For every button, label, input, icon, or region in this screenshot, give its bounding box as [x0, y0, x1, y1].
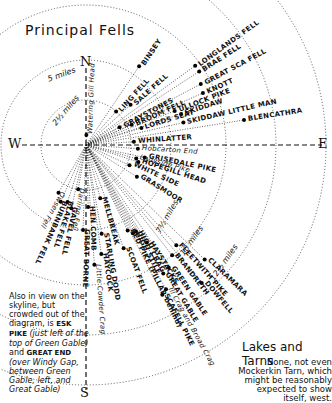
- summit-dot: [193, 64, 197, 68]
- lakes-text: None, not even Mockerkin Tarn, which mig…: [236, 358, 332, 403]
- summit-dot: [136, 147, 140, 151]
- summit-dot: [242, 118, 246, 122]
- summit-dot: [199, 82, 203, 86]
- summit-dot: [201, 91, 205, 95]
- skyline-note: Also in view on the skyline, but crowded…: [9, 292, 89, 394]
- summit-dot: [114, 110, 118, 114]
- note-text-1: Also in view on the skyline, but crowded…: [9, 292, 85, 328]
- summit-dot: [118, 125, 122, 129]
- summit-dot: [137, 64, 141, 68]
- compass-west: W: [8, 136, 21, 151]
- note-great-end: GREAT END: [27, 349, 71, 357]
- note-text-3: (over Windy Gap, between Green Gable, le…: [9, 358, 79, 394]
- note-and: and: [9, 348, 24, 357]
- diagram-title: Principal Fells: [25, 22, 135, 38]
- summit-dot: [132, 140, 136, 144]
- compass-east: E: [318, 136, 328, 151]
- summit-dot: [197, 69, 201, 73]
- summit-dot: [128, 163, 132, 167]
- summit-dot: [181, 121, 185, 125]
- summit-dot: [139, 126, 143, 130]
